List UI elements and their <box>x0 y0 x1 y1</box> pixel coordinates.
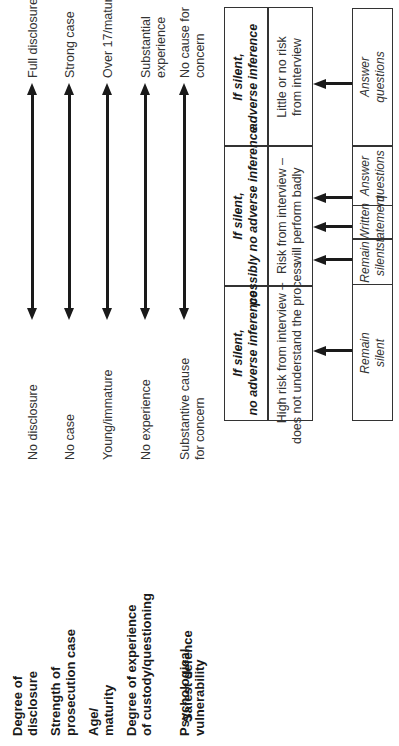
factor-label-age-maturity: Age/maturity <box>86 685 116 736</box>
defence-option-answer-questions: Answerquestions <box>353 8 393 145</box>
table-header-adverse-inference: If silent,adverse inference <box>225 8 267 145</box>
defence-option-remain-silent-mid: Remainsilent <box>353 239 393 285</box>
defence-option-remain-silent: Remainsilent <box>353 286 393 420</box>
factor-low-age-maturity: Young/immature <box>101 369 116 460</box>
factor-high-age-maturity: Over 17/mature <box>101 0 116 78</box>
factor-label-custody-experience: Degree of experienceof custody/questioni… <box>124 593 154 736</box>
factor-label-prosecution-case: Strength ofprosecution case <box>48 629 78 736</box>
factor-high-disclosure: Full disclosure <box>26 0 41 78</box>
factor-high-psych-vulnerability: No cause forconcern <box>178 7 208 78</box>
table-header-possibly-no-adverse-inference: If silent,possibly no adverse inference <box>225 146 267 285</box>
factor-low-disclosure: No disclosure <box>26 384 41 460</box>
factor-low-prosecution-case: No case <box>63 414 78 460</box>
table-header-no-adverse-inference: If silent,no adverse inference <box>225 286 267 420</box>
factor-high-prosecution-case: Strong case <box>63 11 78 78</box>
safest-defence-label: Safest defence <box>180 630 195 722</box>
table-body-little-risk: Little or no riskfrom interview <box>268 8 312 145</box>
defence-option-written-statement: Writtenstatement <box>353 206 393 238</box>
factor-high-custody-experience: Substantialexperience <box>139 16 169 78</box>
table-body-high-risk: High risk from interview –does not under… <box>268 286 312 420</box>
factor-low-psych-vulnerability: Substantive causefor concern <box>178 358 208 460</box>
factor-label-disclosure: Degree ofdisclosure <box>10 671 40 736</box>
factor-low-custody-experience: No experience <box>139 379 154 460</box>
